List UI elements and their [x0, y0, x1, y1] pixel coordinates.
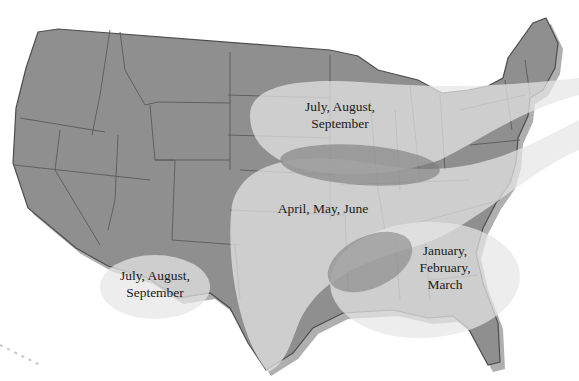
label-apr-may-jun: April, May, June	[258, 200, 388, 217]
label-jul-aug-sep-north: July, August, September	[275, 98, 405, 132]
label-line: March	[405, 276, 485, 293]
label-line: July, August,	[100, 267, 210, 284]
us-map	[0, 0, 579, 381]
label-line: April, May, June	[258, 200, 388, 217]
label-line: February,	[405, 259, 485, 276]
scan-artifact	[0, 345, 40, 365]
label-jan-feb-mar: January, February, March	[405, 242, 485, 293]
label-jul-aug-sep-southwest: July, August, September	[100, 267, 210, 301]
label-line: September	[100, 284, 210, 301]
label-line: July, August,	[275, 98, 405, 115]
label-line: January,	[405, 242, 485, 259]
label-line: September	[275, 115, 405, 132]
